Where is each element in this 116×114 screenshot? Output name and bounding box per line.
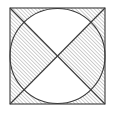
figure-container (0, 0, 116, 114)
geometry-figure (0, 0, 116, 114)
